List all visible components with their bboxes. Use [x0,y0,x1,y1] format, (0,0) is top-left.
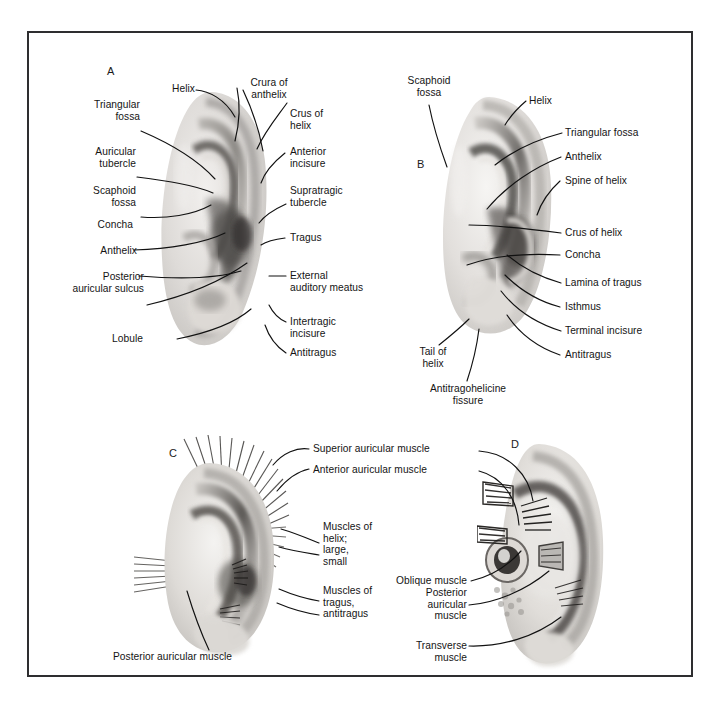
label-b-antitragus: Antitragus [565,349,645,361]
label-a-supratragic-tubercle: Supratragic tubercle [290,185,366,208]
panel-letter-d: D [511,438,519,450]
panel-letter-c: C [169,447,177,459]
label-c-superior-auricular-muscle: Superior auricular muscle [313,443,477,455]
label-a-crura-of-anthelix: Crura of anthelix [237,77,301,100]
label-b-spine-of-helix: Spine of helix [565,175,661,187]
label-a-crus-of-helix: Crus of helix [290,108,360,131]
panel-letter-a: A [107,65,115,77]
panel-letter-b: B [417,158,425,170]
label-b-terminal-incisure: Terminal incisure [565,325,669,337]
label-a-lobule: Lobule [97,333,143,345]
label-d-oblique-muscle: Oblique muscle [369,575,467,587]
label-a-posterior-auricular-sulcus: Posterior auricular sulcus [55,271,144,294]
label-a-concha: Concha [81,219,133,231]
ear-illustration-a [154,88,274,353]
label-c-posterior-auricular-muscle: Posterior auricular muscle [113,651,279,663]
label-c-muscles-of-helix: Muscles of helix; large, small [323,521,393,567]
label-b-anthelix: Anthelix [565,151,645,163]
label-a-tragus: Tragus [290,232,350,244]
label-c-anterior-auricular-muscle: Anterior auricular muscle [313,464,477,476]
label-a-anterior-incisure: Anterior incisure [290,146,360,169]
label-d-transverse-muscle: Transverse muscle [377,640,467,663]
label-a-auricular-tubercle: Auricular tubercle [65,146,136,169]
label-a-intertragic-incisure: Intertragic incisure [290,316,362,339]
ear-illustration-d [477,438,622,673]
label-b-scaphoid-fossa: Scaphoid fossa [396,75,462,98]
label-d-posterior-auricular-muscle: Posterior auricular muscle [377,587,467,622]
label-b-tail-of-helix: Tail of helix [407,346,459,369]
figure-root: A B C D Helix Crura of anthelix Triangul… [0,0,726,703]
label-b-antitragohelicine-fissure: Antitragohelicine fissure [412,383,524,406]
label-a-antitragus: Antitragus [290,347,360,359]
ear-illustration-c [134,433,319,658]
ear-illustration-b [435,93,565,343]
label-a-triangular-fossa: Triangular fossa [69,99,140,122]
label-b-triangular-fossa: Triangular fossa [565,127,665,139]
label-b-lamina-of-tragus: Lamina of tragus [565,277,667,289]
label-a-scaphoid-fossa: Scaphoid fossa [67,185,136,208]
label-a-external-auditory-meatus: External auditory meatus [290,270,380,293]
label-b-isthmus: Isthmus [565,301,635,313]
label-a-helix: Helix [129,83,195,95]
label-a-anthelix: Anthelix [77,245,137,257]
label-b-crus-of-helix: Crus of helix [565,227,655,239]
label-b-helix: Helix [529,95,579,107]
label-b-concha: Concha [565,249,635,261]
figure-frame: A B C D Helix Crura of anthelix Triangul… [27,31,693,677]
